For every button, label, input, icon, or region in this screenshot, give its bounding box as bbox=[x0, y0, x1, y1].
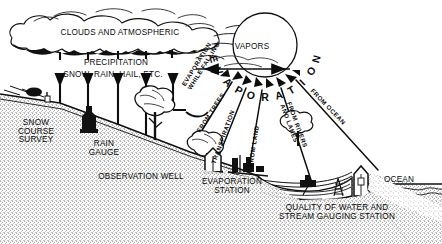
snow-course-survey-line-3: SURVEY bbox=[18, 136, 54, 145]
observation-well-label: OBSERVATION WELL bbox=[98, 173, 184, 182]
vapors-label: VAPORS bbox=[235, 43, 270, 52]
clouds-label: CLOUDS AND ATMOSPHERIC bbox=[61, 29, 180, 38]
precipitation-label: PRECIPITATION bbox=[84, 59, 148, 68]
rain-gauge-label: RAIN GAUGE bbox=[89, 140, 120, 157]
ocean-label: OCEAN bbox=[384, 176, 414, 185]
evaporation-station-line-2: STATION bbox=[202, 187, 262, 196]
tree-1 bbox=[135, 86, 175, 140]
rain-gauge-line-2: GAUGE bbox=[89, 149, 120, 158]
stream-gauging-station-label: QUALITY OF WATER AND STREAM GAUGING STAT… bbox=[279, 204, 395, 221]
hydrologic-cycle-diagram: CLOUDS AND ATMOSPHERIC PRECIPITATION SNO… bbox=[0, 0, 442, 244]
rain-gauge-figure bbox=[80, 106, 98, 133]
snow-course-survey-label: SNOW COURSE SURVEY bbox=[18, 119, 54, 145]
stream-gauging-line-2: STREAM GAUGING STATION bbox=[279, 213, 395, 222]
precipitation-types-label: SNOW, RAIN, HAIL, ETC. bbox=[63, 71, 162, 80]
evaporation-station-label: EVAPORATION STATION bbox=[202, 178, 262, 195]
